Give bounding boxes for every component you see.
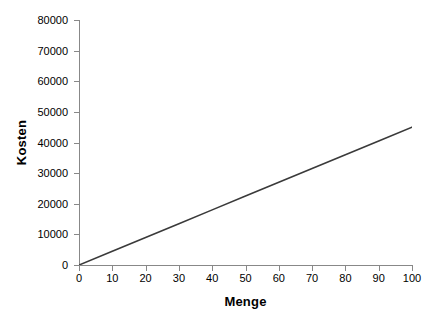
x-tick-mark [412, 266, 413, 271]
x-tick-mark [179, 266, 180, 271]
y-tick-label: 20000 [0, 198, 68, 210]
plot-area [79, 20, 412, 265]
x-tick-mark [279, 266, 280, 271]
y-tick-label: 70000 [0, 45, 68, 57]
y-tick-label: 80000 [0, 14, 68, 26]
y-tick-label: 10000 [0, 228, 68, 240]
x-tick-label: 100 [392, 272, 432, 284]
x-tick-mark [379, 266, 380, 271]
y-tick-label: 0 [0, 259, 68, 271]
y-axis-title: Kosten [14, 20, 29, 265]
series-line-kosten [79, 20, 412, 265]
x-tick-mark [79, 266, 80, 271]
x-tick-mark [112, 266, 113, 271]
x-tick-mark [146, 266, 147, 271]
x-tick-mark [246, 266, 247, 271]
x-tick-mark [212, 266, 213, 271]
y-tick-label: 30000 [0, 167, 68, 179]
y-tick-label: 60000 [0, 75, 68, 87]
y-tick-label: 50000 [0, 106, 68, 118]
line-chart: 0100002000030000400005000060000700008000… [0, 0, 442, 323]
x-tick-mark [312, 266, 313, 271]
x-tick-mark [345, 266, 346, 271]
x-axis-title: Menge [79, 294, 412, 309]
y-tick-label: 40000 [0, 137, 68, 149]
